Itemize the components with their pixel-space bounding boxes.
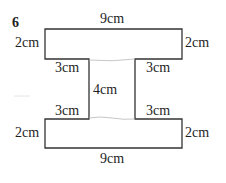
top-right-height-label: 2cm (185, 36, 209, 50)
upper-right-overhang-label: 3cm (146, 61, 170, 75)
bottom-width-label: 9cm (100, 152, 124, 166)
bottom-right-height-label: 2cm (185, 126, 209, 140)
lower-seam-line (89, 117, 135, 119)
lower-left-overhang-label: 3cm (55, 104, 79, 118)
stem-height-label: 4cm (93, 83, 117, 97)
bottom-left-height-label: 2cm (15, 126, 39, 140)
top-left-height-label: 2cm (15, 36, 39, 50)
lower-right-overhang-label: 3cm (146, 104, 170, 118)
upper-left-overhang-label: 3cm (55, 61, 79, 75)
question-number: 6 (12, 16, 19, 30)
upper-seam-line (89, 59, 135, 61)
top-width-label: 9cm (100, 12, 124, 26)
